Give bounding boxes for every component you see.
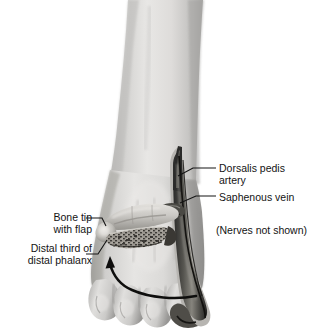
label-bone-tip-with-flap: Bone tip with flap xyxy=(53,212,92,235)
label-distal-third-of-distal-phalanx: Distal third of distal phalanx xyxy=(28,243,92,266)
label-dorsalis-pedis-artery: Dorsalis pedis artery xyxy=(219,163,285,186)
label-saphenous-vein: Saphenous vein xyxy=(219,192,294,204)
leg-shaft xyxy=(110,0,204,186)
figure-container: Dorsalis pedis artery Saphenous vein (Ne… xyxy=(0,0,315,331)
label-nerves-not-shown: (Nerves not shown) xyxy=(216,225,307,237)
